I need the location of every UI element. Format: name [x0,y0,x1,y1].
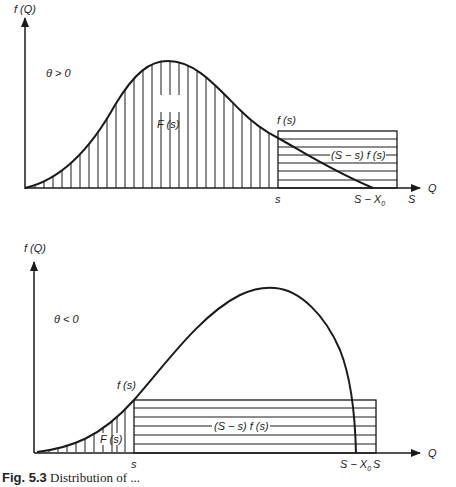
top-panel: f (Q) Q θ > 0 F (s) f (s) (S − s) f (s) … [14,3,437,207]
top-area-label: F (s) [157,118,180,130]
bottom-panel: f (Q) Q θ < 0 F (s) f (s) (S − s) f (s) … [24,242,437,472]
bottom-y-axis-label: f (Q) [24,242,46,254]
top-tick-s: s [275,193,281,205]
bottom-point-label: f (s) [117,379,136,391]
top-condition-label: θ > 0 [46,67,72,79]
top-tick-S: S [408,193,416,205]
caption-text: Distribution of ... [50,470,140,485]
bottom-condition-label: θ < 0 [54,313,80,325]
top-x-axis-label: Q [428,182,437,194]
bottom-x-axis-label: Q [428,447,437,459]
top-point-label: f (s) [277,114,296,126]
bottom-rect-label: (S − s) f (s) [214,420,269,432]
bottom-tick-S: S [373,458,381,470]
caption-number: Fig. 5.3 [2,470,47,485]
bottom-tick-s: s [131,458,137,470]
bottom-tick-s-minus-x0: S − X0 [340,458,371,472]
top-y-axis-label: f (Q) [14,3,36,15]
top-density-curve [25,61,373,188]
top-rect-label: (S − s) f (s) [331,149,386,161]
bottom-density-curve [37,288,356,453]
bottom-area-label: F (s) [100,433,123,445]
top-tick-s-minus-x0: S − X0 [354,193,385,207]
figure-caption: Fig. 5.3 Distribution of ... [2,470,140,486]
